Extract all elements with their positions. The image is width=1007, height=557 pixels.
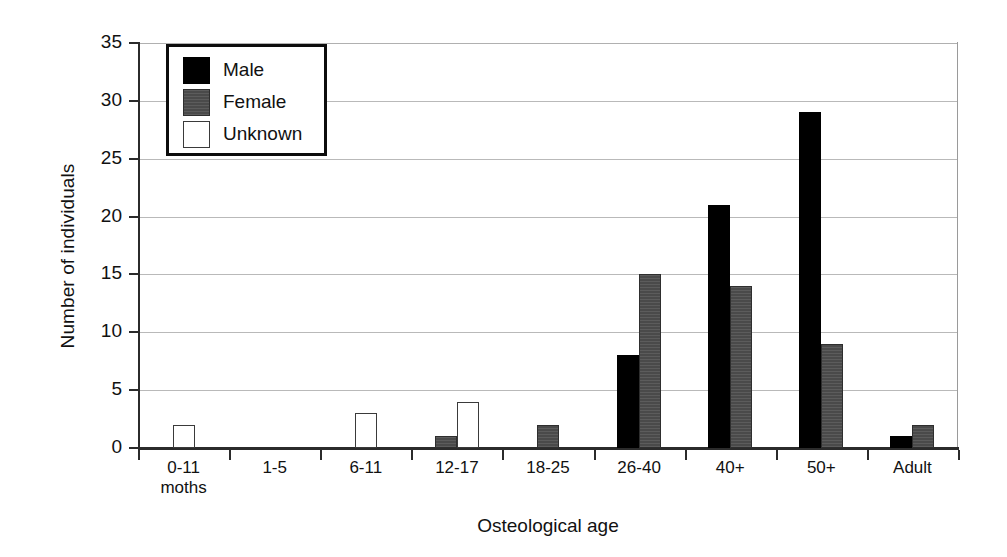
bar-unknown bbox=[457, 402, 479, 448]
bar-group bbox=[502, 43, 593, 448]
y-tick-label-5: 5 bbox=[62, 378, 122, 400]
bar-female bbox=[730, 286, 752, 448]
bar-male bbox=[799, 112, 821, 448]
bar-male bbox=[708, 205, 730, 448]
bar-unknown bbox=[355, 413, 377, 448]
x-tick-label: 40+ bbox=[685, 458, 776, 478]
bar-female bbox=[537, 425, 559, 448]
x-tick-label-line1: Adult bbox=[867, 458, 958, 478]
x-tick-label: 12-17 bbox=[411, 458, 502, 478]
x-tick-label-line1: 50+ bbox=[776, 458, 867, 478]
bar-chart: Number of individuals 05101520253035 0-1… bbox=[0, 0, 1007, 557]
y-tick-label-30: 30 bbox=[62, 89, 122, 111]
legend-item-female: Female bbox=[169, 86, 324, 118]
y-tick-mark-30 bbox=[129, 100, 138, 102]
legend-label-male: Male bbox=[223, 59, 264, 81]
legend-swatch-female bbox=[183, 89, 210, 116]
bar-group bbox=[685, 43, 776, 448]
x-tick-label-line1: 40+ bbox=[685, 458, 776, 478]
x-tick-label: Adult bbox=[867, 458, 958, 478]
x-tick-label: 26-40 bbox=[594, 458, 685, 478]
y-tick-label-10: 10 bbox=[62, 320, 122, 342]
y-tick-label-25: 25 bbox=[62, 147, 122, 169]
x-tick-label: 1-5 bbox=[229, 458, 320, 478]
legend-swatch-male bbox=[183, 57, 210, 84]
x-tick-label-line1: 6-11 bbox=[320, 458, 411, 478]
legend-item-male: Male bbox=[169, 54, 324, 86]
x-tick-label-line1: 0-11 bbox=[138, 458, 229, 478]
y-tick-mark-35 bbox=[129, 42, 138, 44]
bar-male bbox=[890, 436, 912, 448]
bar-group bbox=[320, 43, 411, 448]
y-tick-mark-20 bbox=[129, 216, 138, 218]
y-tick-mark-15 bbox=[129, 273, 138, 275]
x-tick-label: 18-25 bbox=[502, 458, 593, 478]
y-tick-mark-0 bbox=[129, 447, 138, 449]
y-tick-mark-25 bbox=[129, 158, 138, 160]
x-tick-label-line1: 12-17 bbox=[411, 458, 502, 478]
y-tick-label-20: 20 bbox=[62, 205, 122, 227]
legend-label-female: Female bbox=[223, 91, 286, 113]
y-tick-label-35: 35 bbox=[62, 31, 122, 53]
bar-unknown bbox=[173, 425, 195, 448]
legend-swatch-unknown bbox=[183, 121, 210, 148]
chart-legend: MaleFemaleUnknown bbox=[166, 44, 327, 156]
y-tick-label-0: 0 bbox=[62, 436, 122, 458]
y-tick-label-15: 15 bbox=[62, 262, 122, 284]
bar-group bbox=[594, 43, 685, 448]
x-tick-label-line1: 26-40 bbox=[594, 458, 685, 478]
bar-group bbox=[411, 43, 502, 448]
legend-item-unknown: Unknown bbox=[169, 118, 324, 150]
x-tick-label-line1: 1-5 bbox=[229, 458, 320, 478]
x-axis-title: Osteological age bbox=[138, 515, 958, 537]
x-tick-label-line1: 18-25 bbox=[502, 458, 593, 478]
bar-group bbox=[867, 43, 958, 448]
bar-female bbox=[821, 344, 843, 448]
bar-female bbox=[639, 274, 661, 448]
y-tick-mark-5 bbox=[129, 389, 138, 391]
bar-group bbox=[776, 43, 867, 448]
bar-male bbox=[617, 355, 639, 448]
x-tick-label: 0-11moths bbox=[138, 458, 229, 498]
y-tick-mark-10 bbox=[129, 331, 138, 333]
x-tick-label: 50+ bbox=[776, 458, 867, 478]
x-tick-mark-9 bbox=[958, 450, 960, 460]
x-tick-label-line2: moths bbox=[138, 478, 229, 498]
bar-female bbox=[912, 425, 934, 448]
x-tick-label: 6-11 bbox=[320, 458, 411, 478]
bar-female bbox=[435, 436, 457, 448]
legend-label-unknown: Unknown bbox=[223, 123, 302, 145]
